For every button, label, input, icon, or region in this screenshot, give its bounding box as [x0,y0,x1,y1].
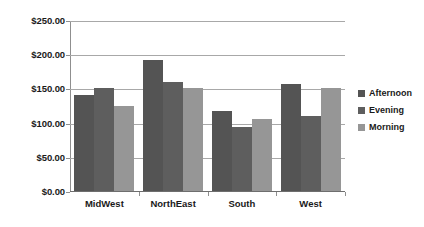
bar-group [212,21,272,191]
bar[interactable] [94,88,114,191]
bar[interactable] [252,119,272,191]
legend-label: Evening [369,106,404,115]
legend-swatch-icon [358,107,365,114]
y-axis-tick-label: $50.00 [10,153,65,163]
legend-item[interactable]: Morning [358,122,424,132]
x-axis-line [70,191,345,192]
plot-area [70,21,345,192]
legend-swatch-icon [358,90,365,97]
x-axis-tick-labels: MidWestNorthEastSouthWest [70,198,345,218]
y-axis-tick-label: $100.00 [10,119,65,129]
y-axis-tick-label: $200.00 [10,50,65,60]
x-axis-tick-mark [345,192,346,196]
bar[interactable] [114,106,134,192]
bar-chart: $250.00$200.00$150.00$100.00$50.00$0.00 … [0,0,424,227]
legend-label: Morning [369,123,405,132]
x-axis-tick-mark [208,192,209,196]
x-axis-tick-mark [276,192,277,196]
y-axis-tick-label: $250.00 [10,16,65,26]
y-axis-tick-mark [66,192,70,193]
bar-group [74,21,134,191]
x-axis-tick-label: MidWest [85,198,124,209]
legend-swatch-icon [358,124,365,131]
bar[interactable] [281,84,301,191]
x-axis-tick-mark [139,192,140,196]
bar[interactable] [143,60,163,191]
bar[interactable] [212,111,232,191]
bar[interactable] [321,88,341,191]
y-axis-tick-labels: $250.00$200.00$150.00$100.00$50.00$0.00 [10,0,65,227]
bar[interactable] [74,95,94,191]
bar-group [143,21,203,191]
y-axis-tick-mark [66,55,70,56]
x-axis-tick-label: West [299,198,322,209]
x-axis-tick-label: NorthEast [150,198,195,209]
bar[interactable] [163,82,183,191]
chart-legend: AfternoonEveningMorning [358,88,424,139]
y-axis-tick-mark [66,89,70,90]
bar[interactable] [232,127,252,191]
y-axis-tick-mark [66,21,70,22]
y-axis-line [70,21,71,192]
legend-item[interactable]: Afternoon [358,88,424,98]
bar-group [281,21,341,191]
legend-label: Afternoon [369,89,412,98]
bar[interactable] [183,88,203,191]
y-axis-tick-mark [66,158,70,159]
legend-item[interactable]: Evening [358,105,424,115]
x-axis-tick-label: South [228,198,255,209]
y-axis-tick-label: $150.00 [10,85,65,95]
y-axis-tick-mark [66,124,70,125]
bar[interactable] [301,116,321,191]
y-axis-tick-label: $0.00 [10,187,65,197]
